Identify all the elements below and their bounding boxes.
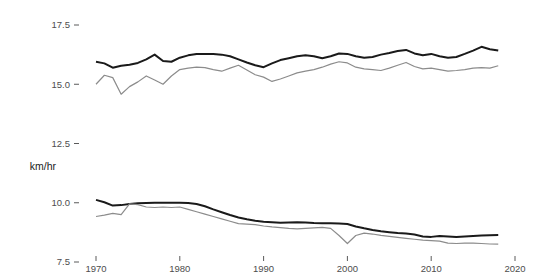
y-tick-label: 15.0	[52, 79, 71, 90]
x-tick-label: 2010	[421, 263, 442, 274]
x-tick-label: 2000	[337, 263, 358, 274]
y-tick-label: 12.5	[52, 138, 71, 149]
series-line-upper-black	[96, 47, 498, 68]
series-line-lower-black	[96, 200, 498, 237]
plot-area: 7.510.012.515.017.5km/hr1970198019902000…	[0, 0, 540, 280]
series-group	[96, 47, 498, 244]
y-tick-label: 7.5	[57, 256, 70, 267]
x-tick-label: 1990	[253, 263, 274, 274]
y-axis: 7.510.012.515.017.5	[52, 19, 80, 267]
series-line-lower-gray	[96, 204, 498, 244]
chart-figure: 7.510.012.515.017.5km/hr1970198019902000…	[0, 0, 540, 280]
x-axis: 197019801990200020102020	[85, 256, 525, 274]
y-tick-label: 17.5	[52, 19, 71, 30]
y-axis-title: km/hr	[30, 160, 57, 172]
x-tick-label: 2020	[504, 263, 525, 274]
x-tick-label: 1980	[169, 263, 190, 274]
y-tick-label: 10.0	[52, 197, 71, 208]
series-line-upper-gray	[96, 62, 498, 94]
x-tick-label: 1970	[85, 263, 106, 274]
